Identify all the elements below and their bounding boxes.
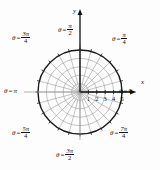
equals-sign: = [116,35,120,43]
theta-symbol: θ [58,26,61,34]
fraction-pi-over-4: π4 [121,32,126,46]
radial-tick-label-3: 3 [101,95,109,102]
outer-tick-150 [42,70,44,71]
angle-label-pi-over-4: θ=π4 [112,32,127,46]
radial-tick-label-4: 4 [110,95,118,102]
theta-symbol: θ [4,87,7,95]
fraction-denominator: 4 [119,133,128,140]
fraction-seven-pi-over-4: 7π4 [119,126,128,140]
theta-symbol: θ [56,151,59,159]
outer-tick-135 [49,61,51,63]
equals-sign: = [62,26,66,34]
radial-tick-label-2: 2 [93,95,101,102]
radial-tick-label-1: 1 [84,95,92,102]
fraction-denominator: 4 [121,39,126,46]
theta-symbol: θ [119,87,122,95]
fraction-three-pi-over-2: 3π2 [65,148,74,162]
x-axis-label: x [141,78,144,86]
angle-label-zero: θ=0 [119,88,132,95]
outer-tick-120 [58,54,59,56]
fraction-denominator: 4 [21,38,30,45]
fraction-denominator: 2 [67,30,72,37]
fraction-three-pi-over-4: 3π4 [21,31,30,45]
equals-sign: = [16,34,20,42]
outer-tick-45 [110,61,112,63]
y-axis-arrowhead [78,9,83,15]
outer-tick-210 [42,113,44,114]
fraction-pi-over-2: π2 [67,23,72,37]
theta-symbol: θ [110,129,113,137]
fraction-denominator: 4 [21,133,30,140]
angle-label-five-pi-over-4: θ=5π4 [12,126,30,140]
outer-tick-315 [110,122,112,124]
equals-sign: = [123,87,127,95]
polar-grid-svg [0,0,160,170]
fraction-five-pi-over-4: 5π4 [21,126,30,140]
outer-tick-60 [101,54,102,56]
equals-sign: = [60,151,64,159]
outer-tick-330 [116,113,118,114]
polar-grid-figure: 12345 x y θ=π2 θ=π4 θ=3π4 θ=π θ=0 θ=5π4 … [0,0,160,170]
radial-tick-label-5: 5 [118,95,126,102]
outer-tick-30 [116,70,118,71]
outer-tick-300 [101,128,102,130]
equals-sign: = [114,129,118,137]
outer-tick-240 [58,128,59,130]
fraction-denominator: 2 [65,155,74,162]
outer-tick-225 [49,122,51,124]
angle-label-pi-over-2: θ=π2 [58,23,73,37]
zero-value: 0 [128,87,132,95]
y-axis-label: y [73,7,76,15]
equals-sign: = [8,87,12,95]
theta-symbol: θ [112,35,115,43]
angle-label-three-pi-over-4: θ=3π4 [12,31,30,45]
angle-label-three-pi-over-2: θ=3π2 [56,148,74,162]
angle-label-seven-pi-over-4: θ=7π4 [110,126,128,140]
equals-sign: = [16,129,20,137]
theta-symbol: θ [12,129,15,137]
theta-symbol: θ [12,34,15,42]
pi-symbol: π [13,87,17,95]
angle-label-pi: θ=π [4,88,17,95]
